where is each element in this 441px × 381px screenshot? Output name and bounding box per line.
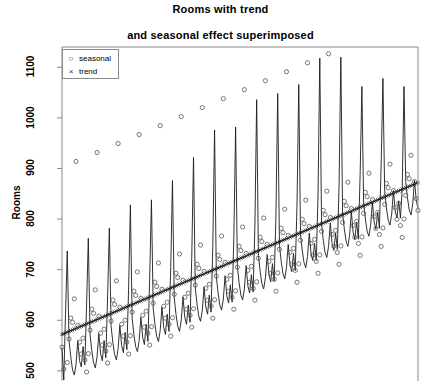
marker-layer — [60, 52, 420, 374]
seasonal-marker — [84, 370, 88, 374]
seasonal-marker — [81, 336, 85, 340]
seasonal-marker — [356, 241, 360, 245]
seasonal-marker — [70, 320, 74, 324]
seasonal-marker — [291, 246, 295, 250]
seasonal-marker — [74, 159, 78, 163]
seasonal-marker — [297, 262, 301, 266]
seasonal-marker — [120, 322, 124, 326]
seasonal-marker — [139, 296, 143, 300]
seasonal-marker — [286, 233, 290, 237]
seasonal-marker — [111, 298, 115, 302]
legend: ○ seasonal × trend — [62, 49, 119, 79]
seasonal-marker — [181, 278, 185, 282]
seasonal-marker — [255, 280, 259, 284]
seasonal-marker — [276, 271, 280, 275]
seasonal-marker — [283, 207, 287, 211]
y-tick-label: 500 — [25, 347, 36, 381]
seasonal-marker — [318, 253, 322, 257]
seasonal-marker — [158, 123, 162, 127]
seasonal-marker — [237, 244, 241, 248]
seasonal-marker — [333, 228, 337, 232]
seasonal-marker — [335, 250, 339, 254]
seasonal-marker — [127, 352, 131, 356]
seasonal-marker — [302, 222, 306, 226]
seasonal-marker — [358, 253, 362, 257]
seasonal-marker — [198, 243, 202, 247]
seasonal-marker — [307, 224, 311, 228]
seasonal-marker — [346, 180, 350, 184]
cross-x-icon: × — [67, 68, 75, 76]
seasonal-marker — [265, 242, 269, 246]
y-tick-label: 600 — [25, 297, 36, 343]
seasonal-marker — [123, 318, 127, 322]
seasonal-marker — [402, 217, 406, 221]
seasonal-marker — [176, 275, 180, 279]
seasonal-marker — [90, 307, 94, 311]
legend-item-label: trend — [79, 67, 97, 76]
seasonal-marker — [263, 79, 267, 83]
seasonal-marker — [207, 282, 211, 286]
seasonal-marker — [153, 280, 157, 284]
seasonal-marker — [319, 229, 323, 233]
seasonal-marker — [72, 297, 76, 301]
seasonal-marker — [137, 132, 141, 136]
seasonal-marker — [197, 266, 201, 270]
legend-item-label: seasonal — [79, 54, 111, 63]
seasonal-marker — [179, 114, 183, 118]
seasonal-marker — [379, 244, 383, 248]
seasonal-marker — [316, 271, 320, 275]
seasonal-marker — [86, 351, 90, 355]
observed-series-line — [62, 57, 418, 380]
seasonal-marker — [270, 255, 274, 259]
seasonal-marker — [76, 323, 80, 327]
seasonal-marker — [330, 232, 334, 236]
seasonal-marker — [134, 293, 138, 297]
seasonal-marker — [337, 262, 341, 266]
seasonal-marker — [344, 204, 348, 208]
seasonal-marker — [107, 343, 111, 347]
seasonal-marker — [298, 238, 302, 242]
seasonal-marker — [312, 237, 316, 241]
seasonal-marker — [69, 316, 73, 320]
y-tick-label: 900 — [25, 145, 36, 191]
seasonal-marker — [190, 325, 194, 329]
axis-layer — [57, 47, 62, 381]
seasonal-marker — [407, 177, 411, 181]
seasonal-marker — [284, 70, 288, 74]
seasonal-marker — [304, 198, 308, 202]
seasonal-marker — [221, 97, 225, 101]
seasonal-marker — [211, 316, 215, 320]
seasonal-marker — [91, 311, 95, 315]
seasonal-marker — [200, 106, 204, 110]
seasonal-marker — [228, 273, 232, 277]
seasonal-marker — [223, 260, 227, 264]
seasonal-marker — [160, 287, 164, 291]
chart-container: Rooms with trend and seasonal effect sup… — [0, 0, 441, 381]
seasonal-marker — [169, 334, 173, 338]
seasonal-marker — [234, 289, 238, 293]
seasonal-marker — [148, 343, 152, 347]
seasonal-marker — [339, 244, 343, 248]
seasonal-marker — [202, 269, 206, 273]
seasonal-marker — [212, 298, 216, 302]
seasonal-marker — [349, 206, 353, 210]
seasonal-marker — [351, 223, 355, 227]
y-tick-label: 700 — [25, 246, 36, 292]
seasonal-marker — [340, 220, 344, 224]
seasonal-marker — [386, 186, 390, 190]
seasonal-marker — [370, 197, 374, 201]
seasonal-marker — [191, 307, 195, 311]
seasonal-marker — [116, 141, 120, 145]
seasonal-marker — [118, 305, 122, 309]
seasonal-marker — [305, 61, 309, 65]
seasonal-marker — [295, 280, 299, 284]
seasonal-marker — [156, 261, 160, 265]
seasonal-marker — [232, 307, 236, 311]
seasonal-marker — [132, 289, 136, 293]
legend-item-seasonal: ○ seasonal — [67, 52, 111, 65]
seasonal-marker — [365, 195, 369, 199]
y-tick-label: 800 — [25, 196, 36, 242]
seasonal-marker — [141, 313, 145, 317]
seasonal-marker — [113, 302, 117, 306]
seasonal-marker — [219, 234, 223, 238]
